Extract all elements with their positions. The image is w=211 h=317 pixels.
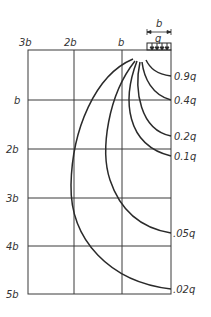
load-width-label: b bbox=[156, 18, 162, 29]
load-intensity-label: q bbox=[155, 33, 161, 44]
top-label-3b: 3b bbox=[19, 37, 32, 48]
isobar-label-0.02q: .02q bbox=[173, 284, 195, 295]
isobars bbox=[71, 59, 171, 289]
strip-load: b q bbox=[147, 18, 171, 50]
left-label-2b: 2b bbox=[6, 144, 19, 155]
isobar-label-0.1q: 0.1q bbox=[174, 151, 196, 162]
top-label-2b: 2b bbox=[64, 37, 77, 48]
isobar-label-0.9q: 0.9q bbox=[174, 71, 196, 82]
pressure-bulb-diagram: 3b 2b b b 2b 3b 4b 5b b q bbox=[0, 0, 211, 317]
load-arrows-icon bbox=[150, 43, 169, 50]
isobar-0.02q bbox=[71, 59, 171, 289]
isobar-label-0.2q: 0.2q bbox=[174, 131, 196, 142]
left-label-5b: 5b bbox=[6, 289, 19, 300]
isobar-label-0.05q: .05q bbox=[173, 228, 195, 239]
isobar-0.4q bbox=[142, 62, 171, 100]
isobar-label-0.4q: 0.4q bbox=[174, 95, 196, 106]
left-label-3b: 3b bbox=[6, 193, 19, 204]
left-label-4b: 4b bbox=[6, 241, 19, 252]
isobar-0.9q bbox=[146, 60, 171, 76]
left-label-b: b bbox=[14, 95, 20, 106]
top-label-b: b bbox=[118, 37, 124, 48]
